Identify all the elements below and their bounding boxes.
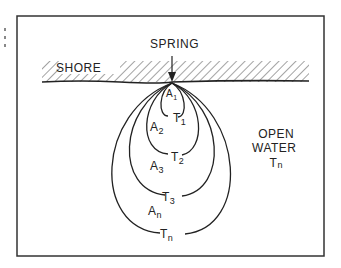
zone-temp-label: Tn	[160, 228, 173, 240]
zone-temp-label: T3	[162, 191, 175, 203]
shore-label: SHORE	[56, 62, 101, 74]
open-water-temp-label: Tn	[256, 157, 297, 169]
zone-temp-label: T2	[171, 151, 184, 163]
zone-area-label: A3	[150, 160, 164, 172]
plume-loop-3	[129, 83, 214, 196]
zone-area-label: An	[148, 205, 162, 217]
open-water-label: OPEN WATER Tn	[256, 128, 297, 169]
spring-label: SPRING	[150, 38, 199, 50]
zone-area-label: A2	[150, 121, 164, 133]
zone-area-label: A1	[166, 89, 178, 99]
zone-temp-label: T1	[173, 112, 186, 124]
